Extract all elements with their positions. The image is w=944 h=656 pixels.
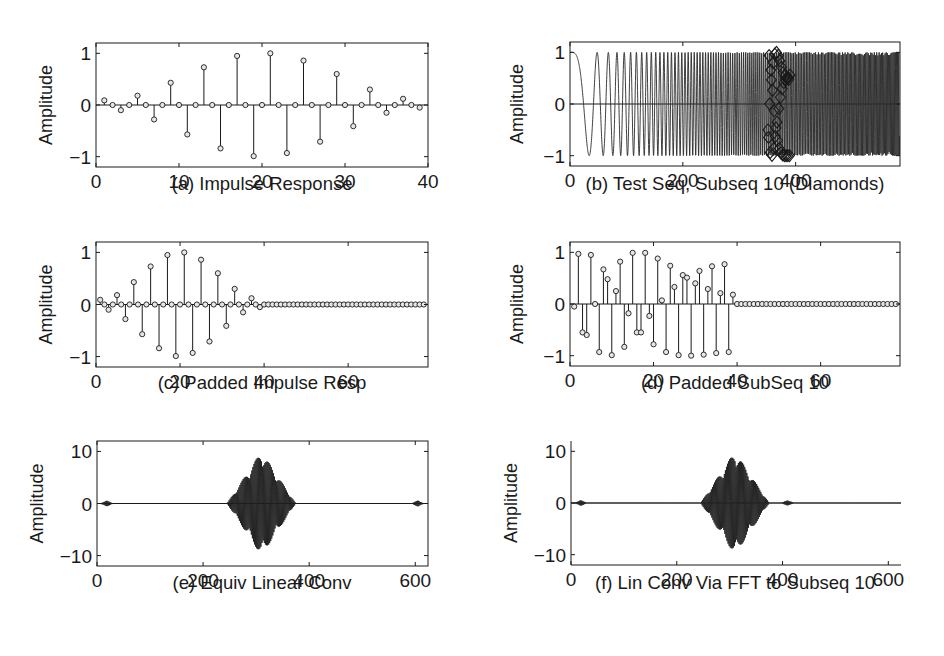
caption-e: (e) Equiv Linear Conv <box>173 572 352 594</box>
y-tick-label: 0 <box>555 493 566 514</box>
caption-f: (f) Lin Conv Via FFT to Subseq 10 <box>595 572 875 594</box>
conv-line <box>571 458 901 549</box>
caption-c: (c) Padded Impulse Resp <box>158 372 367 394</box>
caption-a: (a) Impulse Response <box>172 173 353 195</box>
caption-b: (b) Test Seq, Subseq 10 (Diamonds) <box>586 173 885 195</box>
figure: 010203040−101Amplitude 0200400−101Amplit… <box>0 0 944 656</box>
plot-f-lin-conv-fft: 0200400600−10010Amplitude <box>0 0 944 656</box>
plot-area <box>571 458 901 549</box>
caption-d: (d) Padded SubSeq 10 <box>641 372 829 394</box>
y-axis-label: Amplitude <box>501 463 521 543</box>
y-tick-label: 10 <box>545 441 566 462</box>
x-tick-label: 600 <box>872 569 904 590</box>
y-tick-label: −10 <box>534 545 566 566</box>
x-tick-label: 0 <box>566 569 577 590</box>
